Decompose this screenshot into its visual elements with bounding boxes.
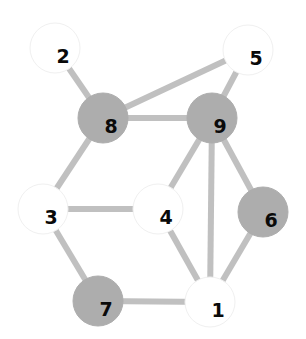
graph-node-label-1: 1 xyxy=(211,299,224,321)
graph-node-circle-6[interactable] xyxy=(238,187,288,237)
graph-node-circle-5[interactable] xyxy=(223,25,273,75)
graph-svg: 123456789 xyxy=(0,0,306,339)
graph-node-label-9: 9 xyxy=(213,115,226,137)
graph-node-label-3: 3 xyxy=(44,206,57,228)
graph-node-7[interactable]: 7 xyxy=(73,276,123,326)
graph-node-label-4: 4 xyxy=(159,206,172,228)
graph-node-label-8: 8 xyxy=(104,115,117,137)
graph-node-circle-2[interactable] xyxy=(30,23,80,73)
node-layer: 123456789 xyxy=(18,23,288,327)
graph-node-label-2: 2 xyxy=(56,45,69,67)
graph-node-label-7: 7 xyxy=(99,298,112,320)
graph-node-6[interactable]: 6 xyxy=(238,187,288,237)
graph-node-2[interactable]: 2 xyxy=(30,23,80,73)
graph-node-circle-1[interactable] xyxy=(185,277,235,327)
graph-node-5[interactable]: 5 xyxy=(223,25,273,75)
graph-node-circle-4[interactable] xyxy=(133,184,183,234)
graph-node-1[interactable]: 1 xyxy=(185,277,235,327)
graph-edge-9-1 xyxy=(210,118,212,302)
graph-node-4[interactable]: 4 xyxy=(133,184,183,234)
graph-node-label-6: 6 xyxy=(264,209,277,231)
graph-node-circle-3[interactable] xyxy=(18,184,68,234)
graph-node-circle-8[interactable] xyxy=(78,93,128,143)
graph-node-3[interactable]: 3 xyxy=(18,184,68,234)
graph-node-circle-7[interactable] xyxy=(73,276,123,326)
graph-node-8[interactable]: 8 xyxy=(78,93,128,143)
graph-node-label-5: 5 xyxy=(249,47,262,69)
graph-node-9[interactable]: 9 xyxy=(187,93,237,143)
graph-node-circle-9[interactable] xyxy=(187,93,237,143)
edge-layer xyxy=(43,48,263,302)
graph-diagram-canvas: 123456789 xyxy=(0,0,306,339)
